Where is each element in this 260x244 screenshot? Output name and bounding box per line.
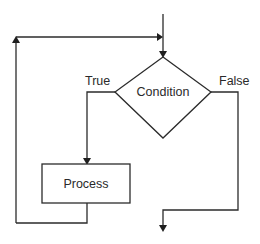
- process-node: Process: [42, 164, 130, 203]
- flowchart-canvas: Condition True Process False: [0, 0, 260, 244]
- true-branch-connector: [87, 92, 115, 158]
- exit-arrow-icon: [159, 225, 167, 232]
- condition-node: Condition: [115, 57, 211, 138]
- true-label: True: [85, 74, 110, 88]
- condition-label: Condition: [137, 85, 190, 99]
- process-label: Process: [63, 177, 108, 191]
- loop-back-right-arrow-icon: [157, 33, 163, 41]
- false-label: False: [219, 74, 250, 88]
- process-return-connector: [16, 203, 87, 223]
